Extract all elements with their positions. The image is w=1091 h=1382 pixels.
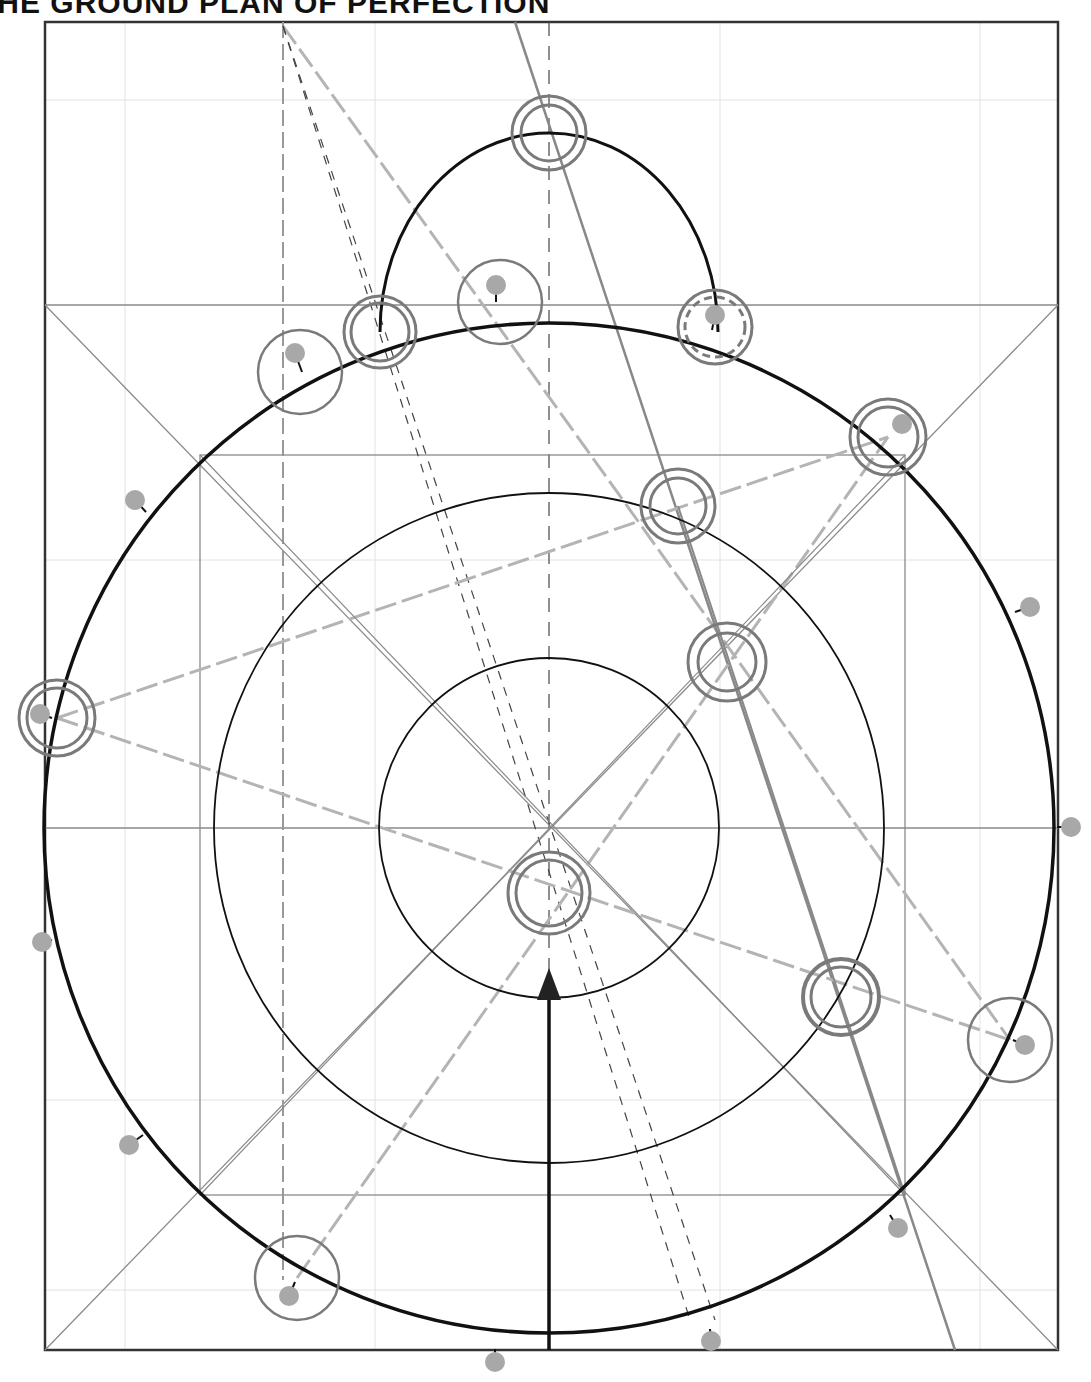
grid-lines [45,22,1058,1350]
arrow-head-icon [537,968,561,1000]
rings [19,96,1052,1320]
marker-dot [485,1352,505,1372]
marker-dot [285,343,305,363]
marker-dot [1015,1035,1035,1055]
marker-dot [119,1135,139,1155]
marker-dot [279,1286,299,1306]
faint-grid [45,22,1058,1350]
marker-dot [125,490,145,510]
marker-dot [1020,597,1040,617]
marker-dot [888,1218,908,1238]
arrow [537,968,561,1350]
marker-dot [30,704,50,724]
marker-dot [705,305,725,325]
marker-dot [486,275,506,295]
marker-dot [701,1331,721,1351]
outer-frame [45,22,1058,1350]
ground-plan-diagram [0,0,1091,1382]
marker-dot [32,932,52,952]
marker-dot [1061,817,1081,837]
marker-dot [892,414,912,434]
